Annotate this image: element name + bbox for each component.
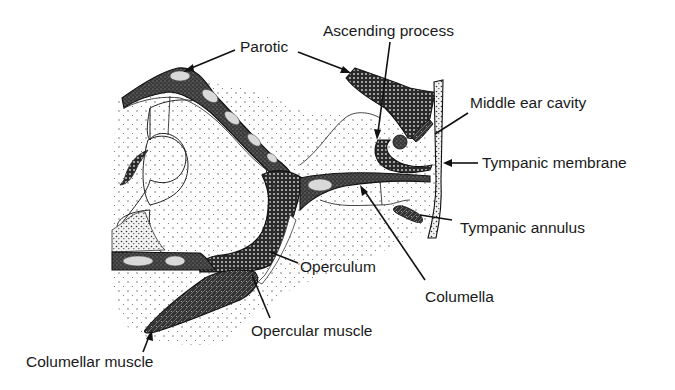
label-parotic: Parotic <box>240 38 288 55</box>
label-middle-ear-cavity: Middle ear cavity <box>470 94 587 111</box>
label-tympanic-annulus: Tympanic annulus <box>460 219 585 236</box>
arrowhead <box>443 159 452 167</box>
nodule <box>170 71 190 81</box>
label-columella: Columella <box>425 288 494 305</box>
diagram-canvas: Parotic Ascending process Middle ear cav… <box>0 0 675 390</box>
arrowhead <box>340 66 351 73</box>
leader-parotic-right <box>298 52 345 70</box>
label-tympanic-membrane: Tympanic membrane <box>482 154 627 171</box>
nodule <box>165 256 185 266</box>
label-ascending-process: Ascending process <box>323 22 454 39</box>
label-opercular-muscle: Opercular muscle <box>251 322 372 339</box>
leader-parotic-left <box>189 50 235 69</box>
anatomy-diagram: Parotic Ascending process Middle ear cav… <box>0 0 675 390</box>
label-operculum: Operculum <box>300 258 376 275</box>
nodule <box>123 256 153 266</box>
nodule <box>308 179 332 191</box>
stapes-footplate <box>393 135 407 149</box>
label-columellar-muscle: Columellar muscle <box>26 353 153 370</box>
